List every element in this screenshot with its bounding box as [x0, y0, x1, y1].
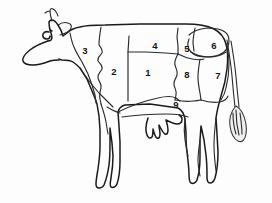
cut-number-8: 8	[184, 69, 189, 80]
cut-number-1: 1	[145, 67, 151, 78]
udder-outline	[146, 115, 182, 138]
cut-number-2: 2	[111, 66, 116, 77]
cow-cuts-diagram: 1 2 3 4 5 6 7 8 9	[0, 0, 272, 203]
cut-number-3: 3	[82, 45, 87, 56]
eye-icon	[43, 32, 50, 39]
cut-number-6: 6	[211, 40, 216, 51]
horn-icon	[45, 9, 58, 21]
tail-tassel	[230, 106, 247, 142]
eye-lash-icon	[50, 30, 52, 31]
cut-number-4: 4	[152, 40, 158, 51]
cut-number-7: 7	[215, 70, 220, 81]
cut-number-5: 5	[184, 43, 190, 54]
cut-number-9: 9	[173, 99, 178, 110]
cow-diagram-svg: 1 2 3 4 5 6 7 8 9	[0, 0, 272, 203]
